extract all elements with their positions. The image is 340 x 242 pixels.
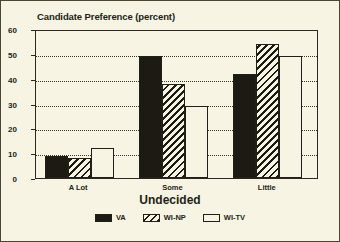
bar	[91, 148, 114, 178]
legend-swatch	[143, 214, 160, 222]
chart-title: Candidate Preference (percent)	[37, 11, 175, 22]
plot-area	[35, 30, 318, 179]
legend-label: WI-TV	[224, 213, 245, 222]
chart-canvas: Candidate Preference (percent) 010203040…	[0, 0, 340, 242]
y-tick-label: 20	[0, 125, 17, 134]
legend-item: WI-NP	[143, 213, 186, 222]
x-category-label: A Lot	[69, 183, 88, 192]
bar	[233, 74, 256, 178]
legend-item: WI-TV	[203, 213, 245, 222]
bar	[279, 56, 302, 178]
bar	[256, 44, 279, 178]
y-tick-label: 10	[0, 150, 17, 159]
bar-group	[139, 31, 208, 178]
x-category-label: Little	[258, 183, 276, 192]
y-tick-label: 0	[0, 175, 17, 184]
legend-label: VA	[116, 213, 126, 222]
legend-swatch	[95, 214, 112, 222]
y-tick-label: 40	[0, 75, 17, 84]
legend-label: WI-NP	[164, 213, 186, 222]
legend-swatch	[203, 214, 220, 222]
x-category-label: Some	[162, 183, 182, 192]
y-tick-label: 60	[0, 26, 17, 35]
bar	[185, 106, 208, 178]
bar	[45, 156, 68, 178]
bar-group	[233, 31, 302, 178]
legend-item: VA	[95, 213, 126, 222]
y-tick-label: 30	[0, 100, 17, 109]
y-tick-mark	[31, 179, 35, 180]
chart-legend: VAWI-NPWI-TV	[1, 213, 339, 222]
x-axis-title: Undecided	[1, 193, 339, 207]
y-tick-label: 50	[0, 50, 17, 59]
bar	[162, 84, 185, 178]
bar-group	[45, 31, 114, 178]
bar-groups	[36, 31, 317, 178]
bar	[68, 158, 91, 178]
bar	[139, 56, 162, 178]
